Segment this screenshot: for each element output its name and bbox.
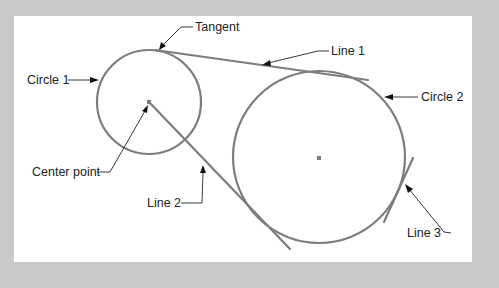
line-2 (149, 102, 290, 249)
arrowhead-icon (142, 105, 148, 113)
leader-center-point (97, 105, 148, 172)
geometry-diagram (0, 0, 499, 288)
leader-line-1 (262, 51, 329, 66)
leader-circle-1 (68, 77, 99, 83)
arrowhead-icon (90, 77, 99, 83)
label-circle-2: Circle 2 (421, 91, 463, 104)
label-line-3: Line 3 (407, 227, 441, 240)
center-point-circle-2 (317, 156, 321, 160)
center-point-circle-1 (147, 100, 151, 104)
arrowhead-icon (262, 60, 271, 66)
label-circle-1: Circle 1 (27, 74, 69, 87)
arrowhead-icon (384, 94, 393, 100)
leader-line-2 (181, 165, 206, 203)
leader-circle-2 (384, 94, 418, 100)
arrowhead-icon (200, 165, 206, 173)
label-center-point: Center point (32, 166, 100, 179)
arrowhead-icon (405, 184, 413, 193)
label-tangent: Tangent (195, 21, 239, 34)
leader-tangent (159, 27, 193, 50)
label-line-1: Line 1 (331, 45, 365, 58)
label-line-2: Line 2 (147, 197, 181, 210)
